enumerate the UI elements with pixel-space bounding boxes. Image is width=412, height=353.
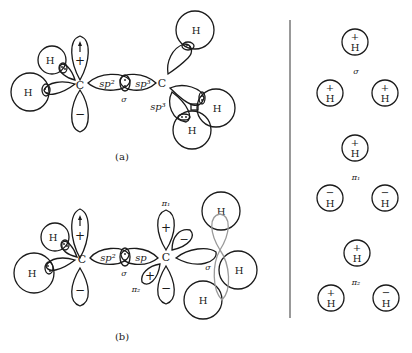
sigma-bond-label: σ (121, 269, 127, 278)
hydrogen-label: H (199, 295, 208, 306)
electron-dot (61, 66, 63, 68)
phase-sign: + (353, 242, 361, 253)
electron-dot (124, 79, 126, 81)
group-orbitals: + H σ + H + H + H π₁ − H − H + (317, 29, 399, 311)
hydrogen-label: H (326, 93, 335, 104)
panel-b: + − C H H sp² sp σ C π₁ + (14, 192, 257, 342)
orbital-diagram: + − C H H sp² sp³ σ C H (0, 0, 412, 353)
sp2-lobe-lower-left (46, 258, 75, 270)
phase-sign: − (326, 187, 334, 198)
hydrogen-label: H (327, 298, 336, 309)
electron-dot (201, 95, 203, 97)
electron-dot (64, 68, 66, 70)
electron-dot (186, 44, 188, 46)
electron-dot (49, 270, 51, 272)
p-orbital-gray-top (212, 214, 229, 250)
caption-b: (b) (115, 331, 129, 342)
hydrogen-label: H (188, 125, 197, 136)
group-orbital-pi1: + H π₁ − H − H (317, 135, 398, 211)
electron-dot (124, 253, 126, 255)
electron-dot (189, 46, 191, 48)
arrow-head-icon (78, 41, 82, 46)
sp3-lobe-upper (168, 44, 192, 74)
phase-sign: + (381, 82, 389, 93)
carbon-right: C (162, 251, 170, 264)
hydrogen-label: H (28, 268, 37, 279)
hydrogen-label: H (235, 265, 244, 276)
hydrogen-label: H (49, 232, 58, 243)
carbon-right: C (158, 77, 166, 90)
hydrogen-label: H (326, 198, 335, 209)
phase-sign: + (351, 31, 359, 42)
pi1-label: π₁ (161, 199, 170, 208)
phase-sign: + (351, 137, 359, 148)
p-orbital-sign-plus: + (75, 54, 85, 68)
p-orbital-sign-minus: − (75, 107, 85, 121)
hydrogen-label: H (351, 42, 360, 53)
sigma-bond-label: σ (121, 95, 127, 104)
hybrid-label-sp3-lower: sp³ (150, 101, 166, 112)
hybrid-label-sp3: sp³ (135, 78, 151, 89)
hydrogen-label: H (382, 298, 391, 309)
sigma-overlap-region (120, 75, 130, 91)
hydrogen-label: H (213, 103, 222, 114)
hybrid-label-sp: sp (135, 252, 147, 263)
electron-dot (201, 99, 203, 101)
pi1-sign-plus: + (161, 221, 171, 235)
electron-dot (124, 259, 126, 261)
electron-dot (124, 85, 126, 87)
overlap-region (178, 114, 190, 120)
hydrogen-label: H (24, 87, 33, 98)
pi2-sign-plus: + (145, 269, 155, 283)
electron-dot (185, 116, 187, 118)
sp-lobe-right (176, 249, 216, 264)
carbon-left: C (78, 253, 86, 266)
phase-sign: − (381, 187, 389, 198)
pi1-sign-minus: − (161, 281, 171, 295)
hybrid-label-sp2: sp² (99, 78, 115, 89)
sigma-label: σ (353, 67, 359, 76)
hydrogen-label: H (351, 148, 360, 159)
hydrogen-label: H (381, 198, 390, 209)
pi2-label: π₂ (131, 285, 140, 294)
electron-dot (66, 245, 68, 247)
carbon-left: C (76, 79, 84, 92)
group-orbital-sigma: + H σ + H + H (317, 29, 398, 106)
pi2-label: π₂ (351, 278, 360, 287)
hydrogen-label: H (46, 55, 55, 66)
p-orbital-gray-bottom (214, 250, 228, 300)
group-orbital-pi2: + H π₂ + H − H (318, 240, 399, 311)
pi1-label: π₁ (351, 173, 360, 182)
p-orbital-sign-plus: + (75, 229, 85, 243)
p-orbital-sign-minus: − (75, 283, 85, 297)
electron-dot (47, 265, 49, 267)
hybrid-label-sp2: sp² (100, 252, 116, 263)
phase-sign: + (327, 287, 335, 298)
hydrogen-label: H (192, 25, 201, 36)
caption-a: (a) (115, 151, 129, 162)
electron-dot (46, 92, 48, 94)
phase-sign: − (382, 287, 390, 298)
hydrogen-label: H (381, 93, 390, 104)
sigma-bond-label-right: σ (205, 263, 211, 272)
electron-dot (63, 243, 65, 245)
arrow-head-icon (78, 215, 82, 220)
electron-dot (44, 88, 46, 90)
electron-dot (181, 116, 183, 118)
phase-sign: + (326, 82, 334, 93)
panel-a: + − C H H sp² sp³ σ C H (11, 11, 235, 162)
hydrogen-label: H (353, 253, 362, 264)
pi1-sign-minus-side: − (179, 233, 188, 246)
